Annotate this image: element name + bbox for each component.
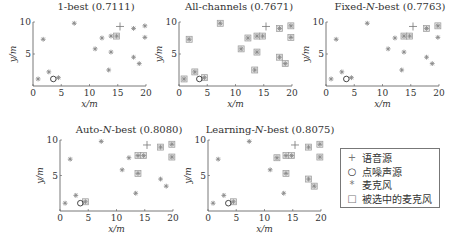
legend-item-selected-microphone: □ 被选中的麦克风 [346, 192, 434, 206]
square-icon: □ [346, 193, 358, 204]
svg-text:5: 5 [233, 213, 239, 223]
svg-text:0: 0 [205, 213, 211, 223]
plus-icon: + [346, 152, 358, 163]
legend-item-speech-source: + 语音源 [346, 151, 434, 165]
legend-item-microphone: * 麦克风 [346, 178, 434, 192]
legend-item-noise-source: ○ 点噪声源 [346, 165, 434, 179]
legend: + 语音源 ○ 点噪声源 * 麦克风 □ 被选中的麦克风 [340, 148, 440, 208]
svg-text:15: 15 [287, 213, 299, 223]
svg-text:20: 20 [315, 213, 327, 223]
svg-text:10: 10 [259, 213, 271, 223]
asterisk-icon: * [346, 179, 358, 190]
circle-icon: ○ [346, 166, 358, 177]
legend-label: 被选中的麦克风 [362, 191, 432, 206]
svg-text:10: 10 [195, 135, 207, 145]
svg-text:x/m: x/m [256, 224, 273, 234]
svg-text:y/m: y/m [183, 167, 193, 185]
svg-text:5: 5 [200, 171, 206, 181]
